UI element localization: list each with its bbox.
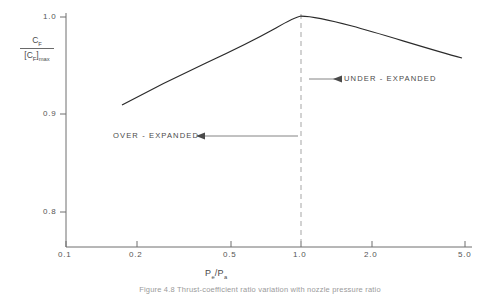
x-tick-label-2.0: 2.0 [364,251,378,259]
x-tick-label-0.1: 0.1 [58,251,72,259]
x-tick-label-0.5: 0.5 [223,251,237,259]
y-axis-label: CF [CF]max [14,36,60,62]
x-tick-label-1.0: 1.0 [293,251,307,259]
y-tick-label-0.8: 0.8 [43,208,57,216]
y-tick-label-0.9: 0.9 [43,110,57,118]
cf-ratio-curve [122,16,462,105]
annotation-over-expanded: OVER - EXPANDED [113,132,199,140]
y-tick-label-1.0: 1.0 [43,13,57,21]
under-expanded-arrow-icon [333,75,342,82]
y-axis-label-fraction-rule [20,48,54,49]
annotation-under-expanded: UNDER - EXPANDED [344,75,437,83]
x-tick-label-5.0: 5.0 [458,251,472,259]
figure-caption: Figure 4.8 Thrust-coefficient ratio vari… [60,285,460,294]
x-tick-label-0.2: 0.2 [129,251,143,259]
x-axis-label: Pe/Pa [205,268,227,280]
y-axis-label-denominator: [CF]max [14,50,60,62]
y-axis-label-numerator: CF [14,36,60,48]
